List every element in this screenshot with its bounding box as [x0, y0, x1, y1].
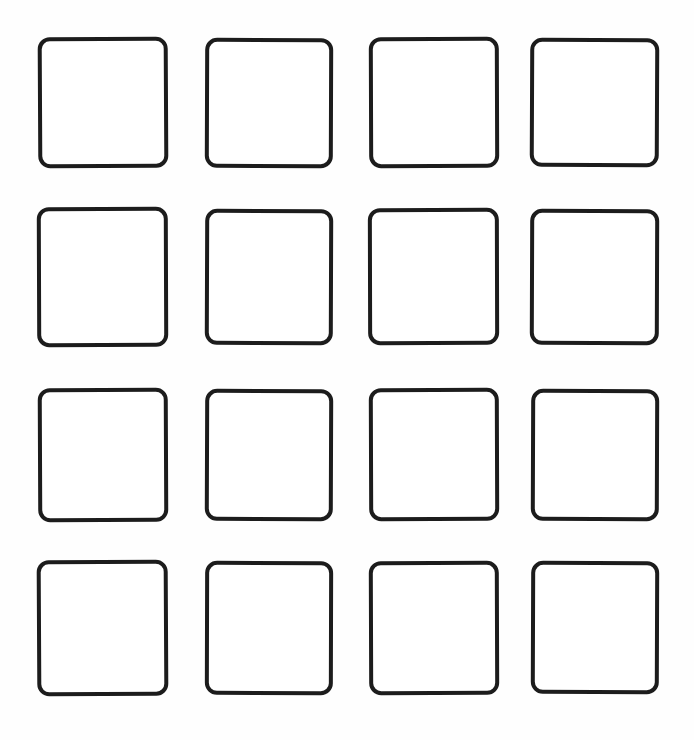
- cell-r3c4[interactable]: [531, 389, 659, 521]
- grid-canvas: [0, 0, 694, 740]
- cell-r4c2[interactable]: [205, 561, 333, 695]
- cell-r4c3[interactable]: [369, 561, 499, 695]
- cell-r2c4[interactable]: [530, 209, 659, 345]
- cell-r1c4[interactable]: [530, 38, 660, 168]
- cell-r3c3[interactable]: [369, 388, 499, 521]
- cell-r1c1[interactable]: [38, 37, 169, 169]
- cell-r4c4[interactable]: [531, 561, 659, 694]
- cell-r4c1[interactable]: [37, 560, 169, 697]
- cell-r3c2[interactable]: [205, 389, 333, 521]
- cell-r1c2[interactable]: [205, 38, 333, 168]
- cell-r3c1[interactable]: [38, 388, 169, 523]
- cell-r2c3[interactable]: [368, 208, 499, 345]
- cell-r2c2[interactable]: [205, 209, 333, 345]
- cell-r2c1[interactable]: [37, 207, 168, 347]
- cell-r1c3[interactable]: [369, 37, 499, 168]
